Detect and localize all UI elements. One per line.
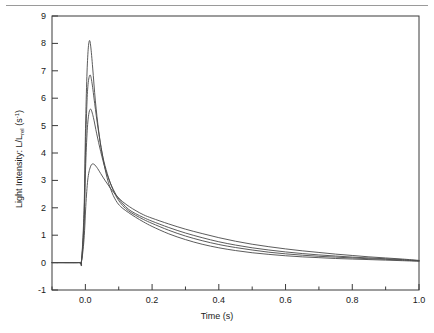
- y-axis-label: Light Intensity: L/Lrel (s-1): [14, 110, 25, 208]
- plot-area: [0, 0, 434, 333]
- y-tick-label: 6: [28, 93, 46, 103]
- y-axis-label-wrapper: Light Intensity: L/Lrel (s-1): [8, 79, 26, 239]
- y-tick-label: 1: [28, 230, 46, 240]
- x-axis-label: Time (s): [0, 311, 434, 321]
- y-tick-label: 7: [28, 66, 46, 76]
- data-curves: [52, 40, 419, 266]
- y-tick-label: 3: [28, 175, 46, 185]
- x-tick-label: 0.8: [346, 295, 359, 305]
- y-tick-label: 5: [28, 121, 46, 131]
- x-tick-label: 0.6: [279, 295, 292, 305]
- plot-frame: [52, 16, 419, 290]
- y-tick-label: 8: [28, 38, 46, 48]
- x-tick-label: 0.0: [79, 295, 92, 305]
- data-curve: [52, 75, 419, 266]
- y-axis-units-exponent: -1: [14, 113, 20, 118]
- x-tick-label: 0.4: [213, 295, 226, 305]
- x-tick-label: 0.2: [146, 295, 159, 305]
- chart-figure: 0.00.20.40.60.81.0 -10123456789 Time (s)…: [0, 0, 434, 333]
- y-tick-label: 4: [28, 148, 46, 158]
- x-tick-label: 1.0: [413, 295, 426, 305]
- y-axis-label-main: Light Intensity: L/L: [14, 135, 24, 208]
- axis-ticks: [52, 16, 419, 290]
- y-tick-label: 2: [28, 203, 46, 213]
- y-axis-units-close: ): [14, 110, 24, 113]
- y-tick-label: 0: [28, 258, 46, 268]
- data-curve: [52, 40, 419, 266]
- y-axis-units-base: (s: [14, 118, 24, 128]
- y-tick-label: -1: [28, 285, 46, 295]
- y-tick-label: 9: [28, 11, 46, 21]
- y-axis-label-subscript: rel: [19, 128, 25, 135]
